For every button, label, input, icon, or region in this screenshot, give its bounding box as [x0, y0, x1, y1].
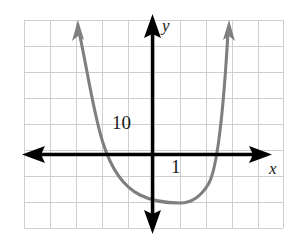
x-scale-label: 1 — [171, 157, 181, 176]
x-axis — [22, 146, 272, 163]
x-axis-label: x — [269, 160, 277, 177]
y-axis-label: y — [162, 17, 170, 34]
coordinate-plane — [0, 0, 289, 245]
graph-figure: y x 10 1 — [0, 0, 289, 245]
y-scale-label: 10 — [112, 113, 131, 132]
curve-arrow-left — [72, 20, 84, 41]
